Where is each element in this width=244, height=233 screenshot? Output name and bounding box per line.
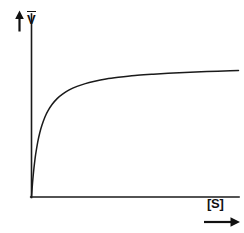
saturation-curve	[32, 71, 239, 197]
y-axis-label: V	[27, 11, 36, 26]
enzyme-kinetics-figure: V [S]	[0, 0, 244, 233]
y-axis-label-text: V	[27, 11, 36, 26]
x-axis-label: [S]	[207, 197, 223, 210]
y-axis-arrow	[15, 11, 24, 32]
x-axis-arrow	[204, 217, 240, 227]
